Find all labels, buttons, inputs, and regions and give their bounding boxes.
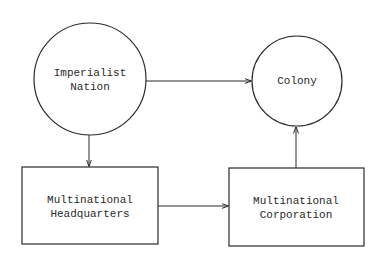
- imperialist-nation-label-line2: Nation: [70, 81, 110, 93]
- colony-label: Colony: [277, 74, 317, 88]
- multinational-headquarters-label: MultinationalHeadquarters: [47, 193, 133, 221]
- multinational-corporation-label: MultinationalCorporation: [253, 194, 339, 222]
- multinational-corporation-label-line1: Multinational: [253, 195, 339, 207]
- imperialist-nation-label: ImperialistNation: [54, 66, 127, 94]
- imperialist-nation-label-line1: Imperialist: [54, 67, 127, 79]
- multinational-corporation-label-line2: Corporation: [260, 209, 333, 221]
- colony-label-line1: Colony: [277, 75, 317, 87]
- multinational-headquarters-label-line1: Multinational: [47, 194, 133, 206]
- multinational-headquarters-label-line2: Headquarters: [50, 208, 129, 220]
